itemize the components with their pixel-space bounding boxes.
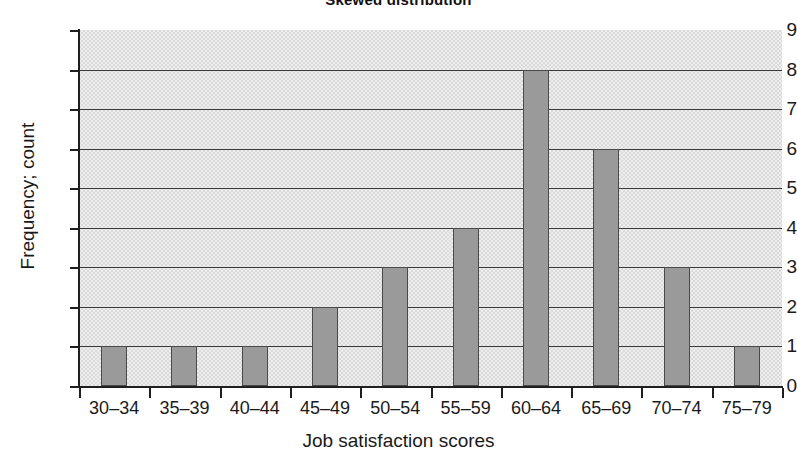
y-tick-mark (70, 70, 79, 72)
bar (171, 346, 197, 386)
x-tick-label: 50–54 (360, 398, 430, 419)
x-tick-mark (220, 388, 222, 398)
bar (242, 346, 268, 386)
gridline (79, 109, 782, 110)
x-tick-mark (501, 388, 503, 398)
x-tick-mark (360, 388, 362, 398)
bar (593, 149, 619, 386)
x-tick-label: 55–59 (431, 398, 501, 419)
y-tick-mark (70, 188, 79, 190)
y-tick-label: 2 (735, 297, 797, 316)
y-tick-mark (70, 30, 79, 32)
bar (101, 346, 127, 386)
gridline (79, 70, 782, 71)
bar (312, 307, 338, 386)
x-tick-label: 70–74 (641, 398, 711, 419)
y-tick-mark (70, 307, 79, 309)
x-tick-mark (431, 388, 433, 398)
y-tick-mark (70, 267, 79, 269)
y-tick-label: 5 (735, 178, 797, 197)
bar (382, 267, 408, 386)
x-tick-mark (149, 388, 151, 398)
y-tick-mark (70, 386, 79, 388)
bar (664, 267, 690, 386)
y-tick-label: 4 (735, 218, 797, 237)
x-tick-label: 60–64 (501, 398, 571, 419)
gridline (79, 188, 782, 189)
x-tick-label: 30–34 (79, 398, 149, 419)
y-tick-mark (70, 149, 79, 151)
bar (523, 70, 549, 386)
chart-figure: Skewed distribution Frequency; count 987… (0, 0, 797, 463)
x-tick-label: 45–49 (290, 398, 360, 419)
x-tick-label: 65–69 (571, 398, 641, 419)
gridline (79, 228, 782, 229)
x-tick-label: 75–79 (712, 398, 782, 419)
y-tick-mark (70, 228, 79, 230)
y-tick-mark (70, 109, 79, 111)
x-tick-mark (79, 388, 81, 398)
y-axis-title: Frequency; count (17, 76, 39, 316)
y-tick-label: 8 (735, 60, 797, 79)
x-tick-mark (712, 388, 714, 398)
y-tick-label: 7 (735, 99, 797, 118)
x-tick-mark (290, 388, 292, 398)
y-axis-line (78, 29, 80, 387)
x-tick-label: 40–44 (220, 398, 290, 419)
plot-area (79, 30, 782, 386)
y-tick-label: 9 (735, 20, 797, 39)
x-tick-mark (782, 388, 784, 398)
gridline (79, 149, 782, 150)
x-tick-mark (571, 388, 573, 398)
y-tick-label: 0 (735, 376, 797, 395)
y-tick-label: 6 (735, 139, 797, 158)
y-tick-label: 1 (735, 336, 797, 355)
bar (453, 228, 479, 386)
x-axis-title: Job satisfaction scores (0, 430, 797, 452)
chart-title: Skewed distribution (0, 0, 797, 8)
x-tick-mark (641, 388, 643, 398)
y-tick-mark (70, 346, 79, 348)
x-tick-label: 35–39 (149, 398, 219, 419)
y-tick-label: 3 (735, 257, 797, 276)
